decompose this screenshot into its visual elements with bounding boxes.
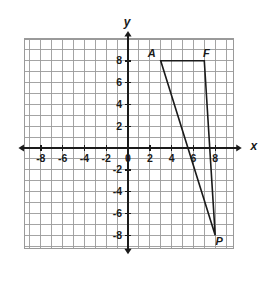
grid-layer — [24, 39, 233, 248]
x-axis-origin-label: 0 — [125, 152, 131, 164]
x-axis-tick-label: 8 — [212, 152, 218, 164]
y-axis-label: y — [123, 15, 132, 29]
y-axis-tick-label: 4 — [116, 98, 122, 110]
y-axis-arrow-down — [124, 249, 131, 255]
coordinate-plane-figure: -8-6-4-2024688642-2-4-6-8 yx AFP — [0, 0, 271, 291]
vertex-label-p: P — [216, 235, 224, 247]
x-axis-arrow-left — [18, 144, 24, 151]
y-axis-tick-label: -6 — [113, 207, 122, 219]
grid-outer-border — [24, 39, 233, 248]
x-axis-tick-label: 4 — [169, 152, 175, 164]
y-axis-tick-label: 2 — [116, 120, 122, 132]
y-axis-arrow-up — [124, 31, 131, 37]
x-axis-label: x — [249, 139, 258, 153]
grid-border — [24, 39, 233, 248]
y-axis-tick-label: -8 — [113, 229, 122, 241]
coordinate-plane-svg: -8-6-4-2024688642-2-4-6-8 yx AFP — [0, 0, 271, 291]
vertex-label-a: A — [147, 47, 156, 59]
x-axis-tick-label: -8 — [36, 152, 45, 164]
x-axis-tick-label: 2 — [147, 152, 153, 164]
x-axis-tick-label: -4 — [80, 152, 89, 164]
x-axis-tick-label: -6 — [58, 152, 67, 164]
y-axis-tick-label: -4 — [113, 185, 122, 197]
y-axis-tick-label: 6 — [116, 76, 122, 88]
y-axis-tick-label: -2 — [113, 163, 122, 175]
axis-names-layer: yx — [123, 15, 259, 153]
vertex-label-f: F — [203, 47, 210, 59]
x-axis-tick-label: -2 — [102, 152, 111, 164]
x-axis-tick-label: 6 — [190, 152, 196, 164]
y-axis-tick-label: 8 — [116, 54, 122, 66]
x-axis-arrow-right — [236, 144, 242, 151]
